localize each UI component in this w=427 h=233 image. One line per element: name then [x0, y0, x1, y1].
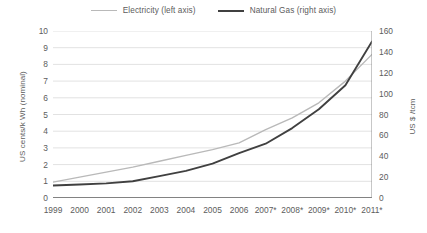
legend-swatch-natural-gas-icon	[218, 10, 244, 12]
y-axis-right-tick-label: 0	[379, 193, 405, 203]
plot-svg	[53, 31, 372, 198]
x-axis-tick-label: 2005	[198, 205, 228, 215]
y-axis-right-tick-label: 80	[379, 110, 405, 120]
plot-area	[53, 31, 372, 198]
y-axis-left-tick-label: 8	[26, 59, 48, 69]
y-axis-left-tick-label: 3	[26, 143, 48, 153]
legend-label-natural-gas: Natural Gas (right axis)	[250, 6, 337, 15]
series-layer	[53, 41, 372, 185]
x-axis-tick-label: 2002	[118, 205, 148, 215]
x-axis-tick-label: 2008*	[277, 205, 307, 215]
x-axis-tick-label: 2001	[91, 205, 121, 215]
y-axis-left-tick-label: 7	[26, 76, 48, 86]
y-axis-left-tick-label: 10	[26, 26, 48, 36]
y-axis-right-tick-label: 160	[379, 26, 405, 36]
y-axis-right-tick-label: 60	[379, 130, 405, 140]
chart-legend: Electricity (left axis) Natural Gas (rig…	[0, 6, 427, 15]
gridlines	[53, 31, 372, 181]
x-axis-tick-label: 2010*	[330, 205, 360, 215]
x-axis-tick-label: 2000	[65, 205, 95, 215]
y-axis-right-tick-label: 120	[379, 68, 405, 78]
legend-swatch-electricity-icon	[91, 10, 117, 11]
y-axis-right-tick-label: 100	[379, 89, 405, 99]
y-axis-left-tick-label: 0	[26, 193, 48, 203]
legend-label-electricity: Electricity (left axis)	[123, 6, 196, 15]
x-axis-tick-label: 2007*	[251, 205, 281, 215]
y-axis-left-tick-label: 2	[26, 160, 48, 170]
y-axis-right-tick-label: 140	[379, 47, 405, 57]
legend-item-natural-gas: Natural Gas (right axis)	[218, 6, 337, 15]
chart-container: Electricity (left axis) Natural Gas (rig…	[0, 0, 427, 233]
series-line-natural-gas-right-axis	[53, 41, 372, 185]
x-axis-tick-label: 2006	[224, 205, 254, 215]
y-axis-right-tick-label: 40	[379, 151, 405, 161]
y-axis-left-tick-label: 6	[26, 93, 48, 103]
x-axis-tick-label: 2003	[144, 205, 174, 215]
y-axis-left-tick-label: 9	[26, 43, 48, 53]
y-axis-left-tick-label: 4	[26, 126, 48, 136]
y-axis-right-title: US $ /tcm	[408, 57, 417, 177]
legend-item-electricity: Electricity (left axis)	[91, 6, 196, 15]
y-axis-right-tick-label: 20	[379, 172, 405, 182]
y-axis-left-tick-label: 1	[26, 176, 48, 186]
x-axis-tick-label: 1999	[38, 205, 68, 215]
x-axis-tick-label: 2009*	[304, 205, 334, 215]
y-axis-left-tick-label: 5	[26, 110, 48, 120]
x-axis-tick-label: 2004	[171, 205, 201, 215]
x-axis-tick-label: 2011*	[357, 205, 387, 215]
